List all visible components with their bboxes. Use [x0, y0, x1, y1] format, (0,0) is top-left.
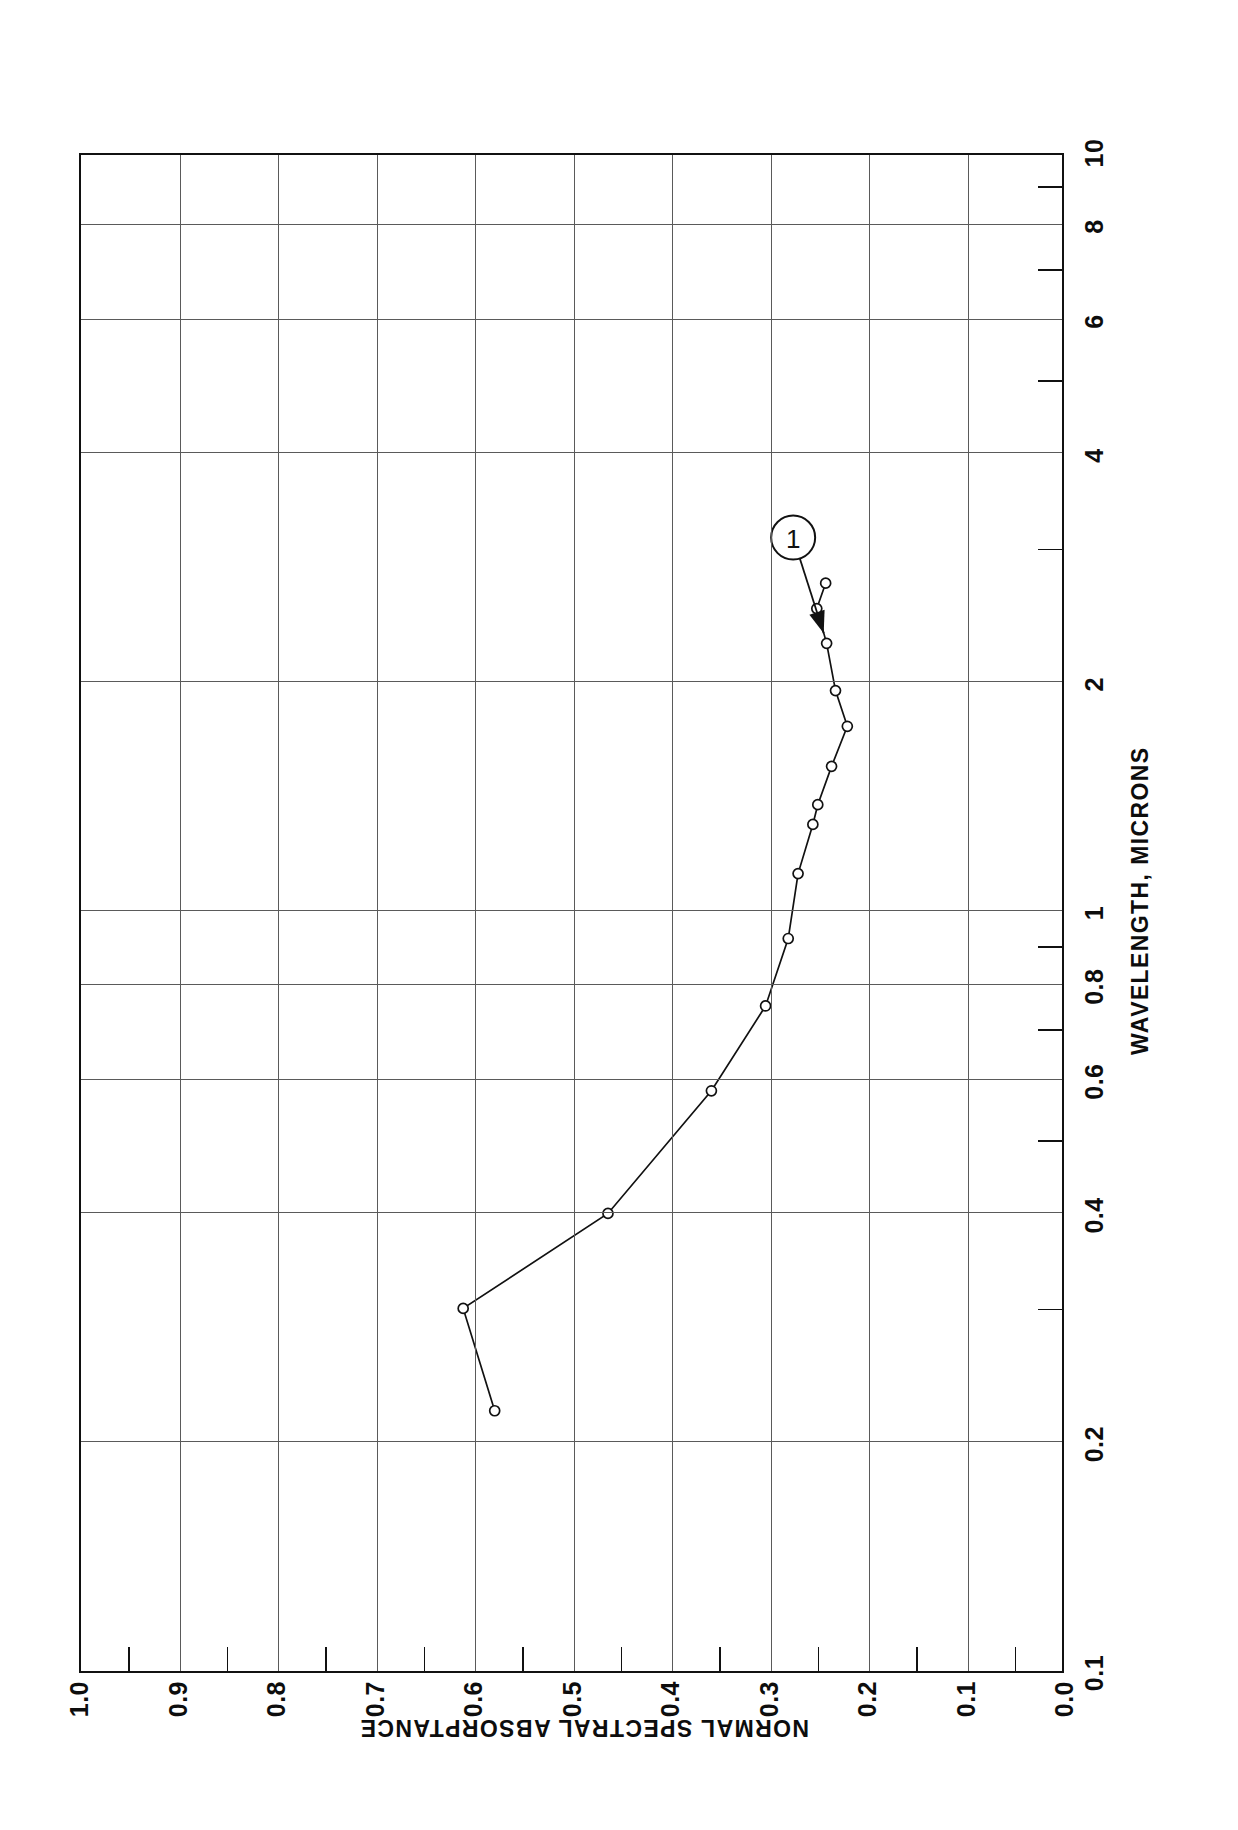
- gridline-vertical: [81, 224, 1062, 225]
- data-point-marker: [783, 934, 793, 944]
- x-axis-tick-label: 0.6: [1080, 1063, 1109, 1099]
- gridline-vertical: [81, 681, 1062, 682]
- gridline-horizontal: [475, 155, 476, 1671]
- x-axis-tick-label: 2: [1080, 677, 1109, 691]
- y-axis-title: NORMAL SPECTRAL ABSORPTANCE: [359, 1714, 809, 1741]
- data-point-marker: [821, 578, 831, 588]
- x-axis-minor-tick: [1038, 186, 1064, 188]
- data-point-marker: [706, 1086, 716, 1096]
- x-axis-minor-tick: [1038, 1309, 1064, 1311]
- x-axis-tick-label: 0.1: [1080, 1655, 1109, 1691]
- callout-annotation: 1: [771, 516, 824, 634]
- y-axis-tick-label: 0.0: [1050, 1681, 1079, 1737]
- y-axis-tick-label: 1.0: [65, 1681, 94, 1737]
- x-axis-minor-tick: [1038, 269, 1064, 271]
- x-axis-minor-tick: [1038, 1029, 1064, 1031]
- y-axis-tick-label: 0.9: [163, 1681, 192, 1737]
- gridline-vertical: [81, 1079, 1062, 1080]
- gridline-horizontal: [574, 155, 575, 1671]
- x-axis-minor-tick: [1038, 549, 1064, 551]
- y-axis-minor-tick: [424, 1647, 426, 1673]
- data-point-marker: [793, 869, 803, 879]
- x-axis-minor-tick: [1038, 946, 1064, 948]
- x-axis-tick-label: 0.8: [1080, 969, 1109, 1005]
- gridline-vertical: [81, 984, 1062, 985]
- x-axis-minor-tick: [1038, 380, 1064, 382]
- gridline-horizontal: [672, 155, 673, 1671]
- gridline-horizontal: [377, 155, 378, 1671]
- y-axis-minor-tick: [227, 1647, 229, 1673]
- gridline-horizontal: [968, 155, 969, 1671]
- data-point-marker: [827, 761, 837, 771]
- gridline-horizontal: [869, 155, 870, 1671]
- rotated-chart-stage: FIGURE 155 NORMAL SPECTRAL ABSORPTANCE O…: [49, 65, 1189, 1765]
- y-axis-minor-tick: [719, 1647, 721, 1673]
- x-axis-minor-tick: [1038, 1140, 1064, 1142]
- x-axis-tick-label: 4: [1080, 448, 1109, 462]
- y-axis-minor-tick: [916, 1647, 918, 1673]
- x-axis-tick-label: 1: [1080, 906, 1109, 920]
- x-axis-tick-label: 0.2: [1080, 1426, 1109, 1462]
- figure-page: FIGURE 155 NORMAL SPECTRAL ABSORPTANCE O…: [0, 0, 1238, 1830]
- data-point-marker: [458, 1303, 468, 1313]
- y-axis-minor-tick: [621, 1647, 623, 1673]
- y-axis-minor-tick: [818, 1647, 820, 1673]
- data-point-marker: [761, 1001, 771, 1011]
- x-axis-tick-label: 8: [1080, 219, 1109, 233]
- gridline-horizontal: [180, 155, 181, 1671]
- y-axis-tick-label: 0.2: [853, 1681, 882, 1737]
- plot-area: 1: [79, 153, 1064, 1673]
- gridline-horizontal: [771, 155, 772, 1671]
- gridline-horizontal: [278, 155, 279, 1671]
- callout-arrow-head: [809, 610, 824, 633]
- x-axis-tick-label: 10: [1080, 139, 1109, 168]
- data-point-marker: [822, 638, 832, 648]
- gridline-vertical: [81, 319, 1062, 320]
- y-axis-tick-label: 0.8: [262, 1681, 291, 1737]
- data-point-marker: [490, 1406, 500, 1416]
- gridline-vertical: [81, 910, 1062, 911]
- x-axis-title: WAVELENGTH, MICRONS: [1127, 746, 1154, 1055]
- data-point-marker: [808, 819, 818, 829]
- y-axis-tick-label: 0.1: [951, 1681, 980, 1737]
- gridline-vertical: [81, 1441, 1062, 1442]
- gridline-vertical: [81, 452, 1062, 453]
- data-series-line: [463, 583, 847, 1411]
- gridline-vertical: [81, 1212, 1062, 1213]
- y-axis-minor-tick: [1015, 1647, 1017, 1673]
- y-axis-minor-tick: [522, 1647, 524, 1673]
- y-axis-minor-tick: [325, 1647, 327, 1673]
- callout-label: 1: [786, 524, 800, 554]
- data-point-marker: [813, 800, 823, 810]
- data-point-marker: [831, 686, 841, 696]
- data-point-marker: [842, 721, 852, 731]
- y-axis-minor-tick: [128, 1647, 130, 1673]
- x-axis-tick-label: 6: [1080, 314, 1109, 328]
- x-axis-tick-label: 0.4: [1080, 1197, 1109, 1233]
